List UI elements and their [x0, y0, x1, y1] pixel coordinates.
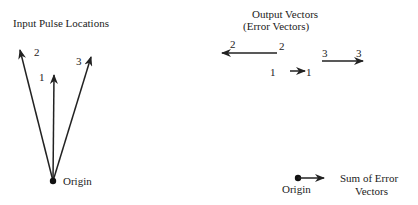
- input-pulse-panel: Input Pulse Locations 2 1 3 Origin: [13, 17, 109, 187]
- error-vector-1-start-label: 1: [270, 66, 276, 78]
- input-origin-label: Origin: [63, 175, 92, 187]
- input-pulse-title: Input Pulse Locations: [13, 17, 109, 29]
- input-vector-3-label: 3: [76, 55, 82, 67]
- input-vector-3-arrow-icon: [53, 57, 91, 181]
- diagram-svg: Input Pulse Locations 2 1 3 Origin Outpu…: [0, 0, 418, 205]
- input-vector-2-arrow-icon: [20, 50, 53, 181]
- input-vector-1-arrow-icon: [53, 75, 54, 181]
- input-vector-1-label: 1: [39, 71, 45, 83]
- sum-origin-label: Origin: [282, 183, 311, 195]
- error-vector-1-end-label: 1: [306, 66, 312, 78]
- origin-dot-icon: [50, 178, 56, 184]
- sum-label-line2: Vectors: [355, 185, 388, 197]
- error-vector-2-start-label: 2: [279, 40, 285, 52]
- input-vector-2-label: 2: [34, 46, 40, 58]
- output-vectors-panel: Output Vectors (Error Vectors) 2 2 1 1 3…: [222, 8, 398, 197]
- diagram-canvas: Input Pulse Locations 2 1 3 Origin Outpu…: [0, 0, 418, 205]
- sum-label-line1: Sum of Error: [340, 172, 398, 184]
- error-vector-3-start-label: 3: [322, 47, 328, 59]
- output-vectors-title: Output Vectors: [252, 8, 318, 20]
- output-vectors-subtitle: (Error Vectors): [243, 20, 309, 33]
- error-vector-3-end-label: 3: [356, 47, 362, 59]
- error-vector-2-end-label: 2: [230, 38, 236, 50]
